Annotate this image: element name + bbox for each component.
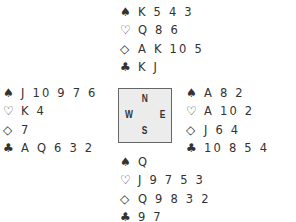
spade-icon: ♠ [3,84,21,102]
compass-east: E [160,108,166,120]
north-clubs: ♣K J [120,58,204,76]
south-clubs: ♣9 7 [120,208,211,222]
spade-icon: ♠ [120,153,138,171]
south-diamonds: ◇Q 9 8 3 2 [120,190,211,208]
north-spades: ♠K 5 4 3 [120,3,204,21]
south-spades: ♠Q [120,153,211,171]
diamond-icon: ◇ [120,190,138,208]
west-spades: ♠J 10 9 7 6 [3,84,98,102]
east-spades: ♠A 8 2 [186,84,269,102]
heart-icon: ♡ [3,102,21,120]
spade-icon: ♠ [120,3,138,21]
compass-north: N [142,92,148,104]
east-hearts: ♡A 10 2 [186,102,269,120]
compass-west: W [125,108,133,120]
west-clubs: ♣A Q 6 3 2 [3,139,98,157]
compass-south: S [142,124,148,136]
heart-icon: ♡ [186,102,204,120]
west-hearts: ♡K 4 [3,102,98,120]
east-diamonds: ◇J 6 4 [186,121,269,139]
east-hand: ♠A 8 2 ♡A 10 2 ◇J 6 4 ♣10 8 5 4 [186,84,269,157]
club-icon: ♣ [3,139,21,157]
west-hand: ♠J 10 9 7 6 ♡K 4 ◇7 ♣A Q 6 3 2 [3,84,98,157]
compass-box: N W E S [118,88,172,143]
club-icon: ♣ [120,58,138,76]
north-hand: ♠K 5 4 3 ♡Q 8 6 ◇A K 10 5 ♣K J [120,3,204,76]
south-hearts: ♡J 9 7 5 3 [120,171,211,189]
diamond-icon: ◇ [186,121,204,139]
heart-icon: ♡ [120,171,138,189]
spade-icon: ♠ [186,84,204,102]
west-diamonds: ◇7 [3,121,98,139]
south-hand: ♠Q ♡J 9 7 5 3 ◇Q 9 8 3 2 ♣9 7 [120,153,211,222]
heart-icon: ♡ [120,21,138,39]
diamond-icon: ◇ [120,40,138,58]
diamond-icon: ◇ [3,121,21,139]
club-icon: ♣ [120,208,138,222]
north-diamonds: ◇A K 10 5 [120,40,204,58]
north-hearts: ♡Q 8 6 [120,21,204,39]
